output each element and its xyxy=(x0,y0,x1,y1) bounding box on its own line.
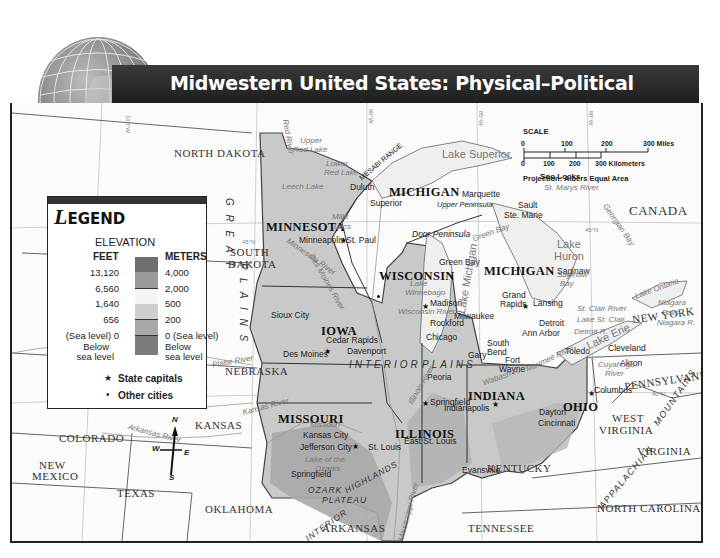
city-sioux-city: Sioux City xyxy=(271,311,309,320)
elevation-swatch-2000 xyxy=(135,288,158,305)
scale-km-200: 200 xyxy=(569,160,581,167)
label-south-dakota-2: DAKOTA xyxy=(228,259,277,270)
label-lake-st-clair: Lake St. Clair xyxy=(577,316,625,324)
compass-n: N xyxy=(172,416,178,424)
label-wisconsin-river: Wisconsin River xyxy=(398,308,455,316)
label-tennessee: TENNESSEE xyxy=(468,523,534,534)
legend-meters-4: 200 xyxy=(165,314,181,325)
capital-star-icon: ★ xyxy=(352,443,359,451)
legend-meters-5: 0 (Sea level) xyxy=(165,330,218,341)
city-lansing: Lansing xyxy=(533,299,563,308)
label-upper-red-lake-2: Red Lake xyxy=(293,146,327,154)
scale-km-100: 100 xyxy=(543,160,555,167)
label-great: G R E A T xyxy=(224,198,234,270)
label-upper-red-lake-1: Upper xyxy=(300,137,322,145)
city-rockford: Rockford xyxy=(430,319,464,328)
label-lake-winnebago-2: Winnebago xyxy=(405,289,445,297)
label-niagara-falls-2: Falls xyxy=(662,309,679,317)
legend-header-bar xyxy=(48,197,206,204)
scale-miles-200: 200 xyxy=(601,140,613,147)
city-des-moines: Des Moines xyxy=(283,350,328,359)
legend-feet-header: FEET xyxy=(93,251,119,262)
legend-panel: LEGEND ELEVATION FEET METERS 13,120 4,00… xyxy=(47,196,207,409)
lat-40-east: 40°N xyxy=(652,391,665,397)
capital-star-icon: ★ xyxy=(492,401,499,409)
label-michigan-upper: MICHIGAN xyxy=(389,186,459,199)
label-missouri-river: Missouri xyxy=(310,421,340,429)
legend-meters-1: 4,000 xyxy=(165,267,189,278)
compass-s: S xyxy=(169,474,174,482)
city-detroit: Detroit xyxy=(539,319,564,328)
state-capital-star-icon: ★ xyxy=(104,373,112,383)
label-door-peninsula: Door Peninsula xyxy=(412,230,470,239)
legend-elevation-label: ELEVATION xyxy=(95,236,155,248)
legend-title: LEGEND xyxy=(54,204,125,230)
city-cleveland: Cleveland xyxy=(608,344,646,353)
label-west-virginia-2: VIRGINIA xyxy=(599,425,653,436)
label-kansas: KANSAS xyxy=(195,420,242,431)
label-texas: TEXAS xyxy=(117,488,155,499)
lon-85: 85°W xyxy=(478,111,484,126)
city-kansas-city: Kansas City xyxy=(303,431,348,440)
label-north-dakota: NORTH DAKOTA xyxy=(174,148,266,159)
map-title: Midwestern United States: Physical–Polit… xyxy=(170,72,634,94)
scale-miles-0: 0 xyxy=(521,140,525,147)
city-sault-2: Ste. Marie xyxy=(504,211,543,220)
label-st-clair-river: St. Clair River xyxy=(577,305,626,313)
label-oklahoma: OKLAHOMA xyxy=(205,504,273,515)
elevation-swatch-top xyxy=(135,257,158,272)
label-new-mexico-2: MEXICO xyxy=(32,471,78,482)
legend-state-capitals: State capitals xyxy=(118,373,182,384)
city-south-bend-2: Bend xyxy=(487,348,507,357)
legend-feet-below-2: sea level xyxy=(77,351,115,362)
elevation-swatch-200 xyxy=(135,319,158,336)
lat-45-east: 45°N xyxy=(585,227,598,233)
label-canada: CANADA xyxy=(629,204,688,217)
label-niagara-river: Niagara R. xyxy=(657,319,695,327)
label-michigan-lower: MICHIGAN xyxy=(484,265,554,278)
elevation-swatch-below xyxy=(135,335,158,355)
label-ohio: OHIO xyxy=(563,401,598,414)
label-ozark: OZARK xyxy=(308,486,342,495)
scale-km-300: 300 Kilometers xyxy=(595,160,645,167)
city-evansville: Evansville xyxy=(462,466,500,475)
lon-90: 90°W xyxy=(368,109,374,124)
scale-miles-300: 300 Miles xyxy=(643,140,674,147)
label-lake-huron-2: Huron xyxy=(554,251,584,262)
label-interior-plains-1: INTERIOR xyxy=(349,360,421,370)
compass-w: W xyxy=(152,445,160,453)
elevation-swatch-4000 xyxy=(135,272,158,288)
city-cedar-rapids: Cedar Rapids xyxy=(326,336,378,345)
label-st-marys-river: St. Marys River xyxy=(544,184,599,192)
scale-label: SCALE xyxy=(523,128,548,136)
label-mille-lacs-1: Mille xyxy=(332,213,348,221)
city-east-st-louis: East St. Louis xyxy=(404,437,456,446)
label-lake-superior: Lake Superior xyxy=(442,149,511,160)
city-grand-rapids-2: Rapids xyxy=(500,300,526,309)
label-leech-lake: Leech Lake xyxy=(282,183,323,191)
city-jefferson-city: Jefferson City xyxy=(300,443,352,452)
city-superior: Superior xyxy=(370,199,402,208)
label-nebraska: NEBRASKA xyxy=(225,366,288,377)
city-indianapolis: Indianapolis xyxy=(444,404,489,413)
capital-star-icon: ★ xyxy=(422,400,429,408)
city-duluth: Duluth xyxy=(350,183,375,192)
label-cuyahoga-1: Cuyahoga xyxy=(598,361,634,369)
lon-100: 100°W xyxy=(125,115,131,133)
city-marquette: Marquette xyxy=(462,190,500,199)
legend-meters-3: 500 xyxy=(165,298,181,309)
legend-feet-2: 6,560 xyxy=(95,283,119,294)
city-st-louis: St. Louis xyxy=(368,443,401,452)
city-dot-icon xyxy=(377,295,380,298)
projection-note: Projection: Albers Equal Area xyxy=(523,175,628,183)
compass-rose: N S W E xyxy=(148,420,198,482)
city-minneapolis: Minneapolis xyxy=(299,236,344,245)
label-lower-red-lake-2: Red Lake xyxy=(324,169,358,177)
city-columbus: Columbus xyxy=(594,386,632,395)
lat-45-west: 45°N xyxy=(242,239,255,245)
legend-feet-3: 1,640 xyxy=(95,298,119,309)
label-niagara-falls-1: Niagara xyxy=(658,299,686,307)
legend-other-cities: Other cities xyxy=(118,390,173,401)
label-saginaw-bay-2: Bay xyxy=(560,280,574,288)
legend-meters-below-2: sea level xyxy=(165,351,203,362)
